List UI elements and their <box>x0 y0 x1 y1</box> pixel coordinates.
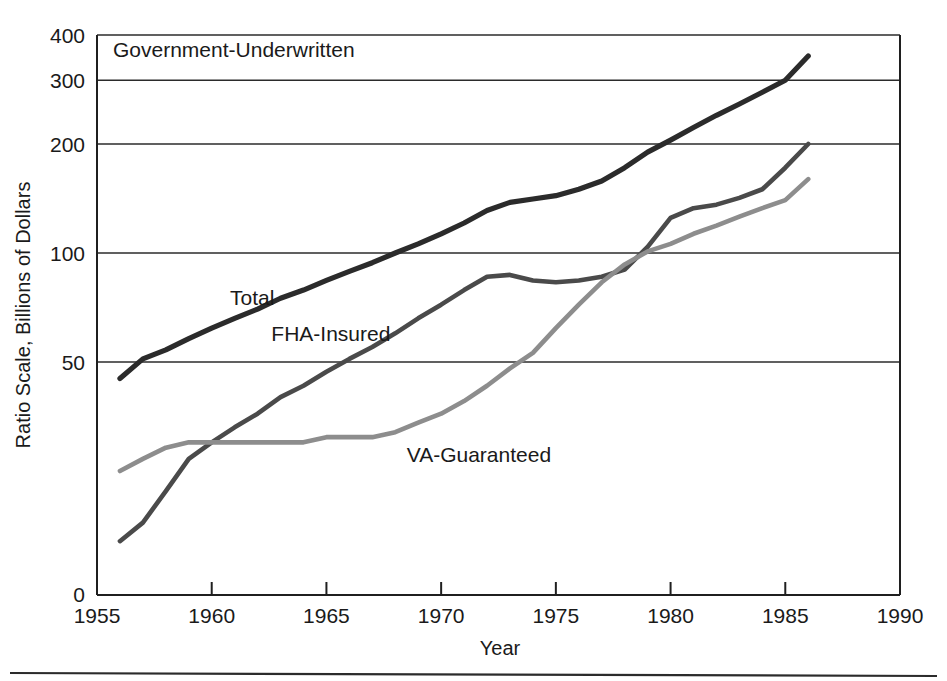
y-tick-label-200: 200 <box>50 133 85 156</box>
y-tick-label-100: 100 <box>50 242 85 265</box>
x-axis-ticks: 19551960196519701975198019851990 <box>74 582 924 627</box>
x-tick-label-1970: 1970 <box>418 604 465 627</box>
x-tick-label-1975: 1975 <box>532 604 579 627</box>
series-line-fha-insured <box>120 144 808 541</box>
panel-title: Government-Underwritten <box>113 38 355 61</box>
series-label-fha-insured: FHA-Insured <box>271 322 390 345</box>
y-tick-label-300: 300 <box>50 69 85 92</box>
y-tick-label-400: 400 <box>50 24 85 47</box>
axes <box>97 35 900 595</box>
x-tick-label-1960: 1960 <box>188 604 235 627</box>
y-tick-label-0: 0 <box>73 583 85 606</box>
line-chart: 501002003004000 195519601965197019751980… <box>0 0 947 681</box>
y-axis-ticks: 501002003004000 <box>50 24 85 606</box>
series-line-total <box>120 56 808 379</box>
x-axis-title: Year <box>480 637 521 659</box>
footer-divider <box>10 673 937 676</box>
series-label-total: Total <box>230 286 274 309</box>
chart-figure: 501002003004000 195519601965197019751980… <box>0 0 947 681</box>
x-tick-label-1965: 1965 <box>303 604 350 627</box>
y-axis-title: Ratio Scale, Billions of Dollars <box>12 182 34 449</box>
y-tick-label-50: 50 <box>62 351 85 374</box>
x-tick-label-1955: 1955 <box>74 604 121 627</box>
x-tick-label-1980: 1980 <box>647 604 694 627</box>
x-tick-label-1990: 1990 <box>877 604 924 627</box>
x-tick-label-1985: 1985 <box>762 604 809 627</box>
data-series <box>120 56 808 541</box>
series-label-va-guaranteed: VA-Guaranteed <box>407 443 551 466</box>
